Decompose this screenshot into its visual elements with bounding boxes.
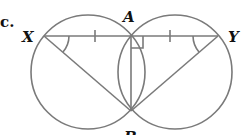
right-circle: [118, 15, 232, 129]
segment-yb: [131, 36, 218, 111]
label-a: A: [121, 8, 135, 26]
label-y: Y: [228, 28, 240, 46]
left-circle: [31, 15, 145, 129]
angle-arc-x: [63, 36, 69, 52]
angle-arc-y: [193, 36, 199, 52]
label-b: B: [123, 128, 137, 135]
label-x: X: [21, 28, 35, 46]
geometry-diagram: c. X A Y B: [0, 0, 243, 135]
problem-marker: c.: [0, 13, 14, 31]
